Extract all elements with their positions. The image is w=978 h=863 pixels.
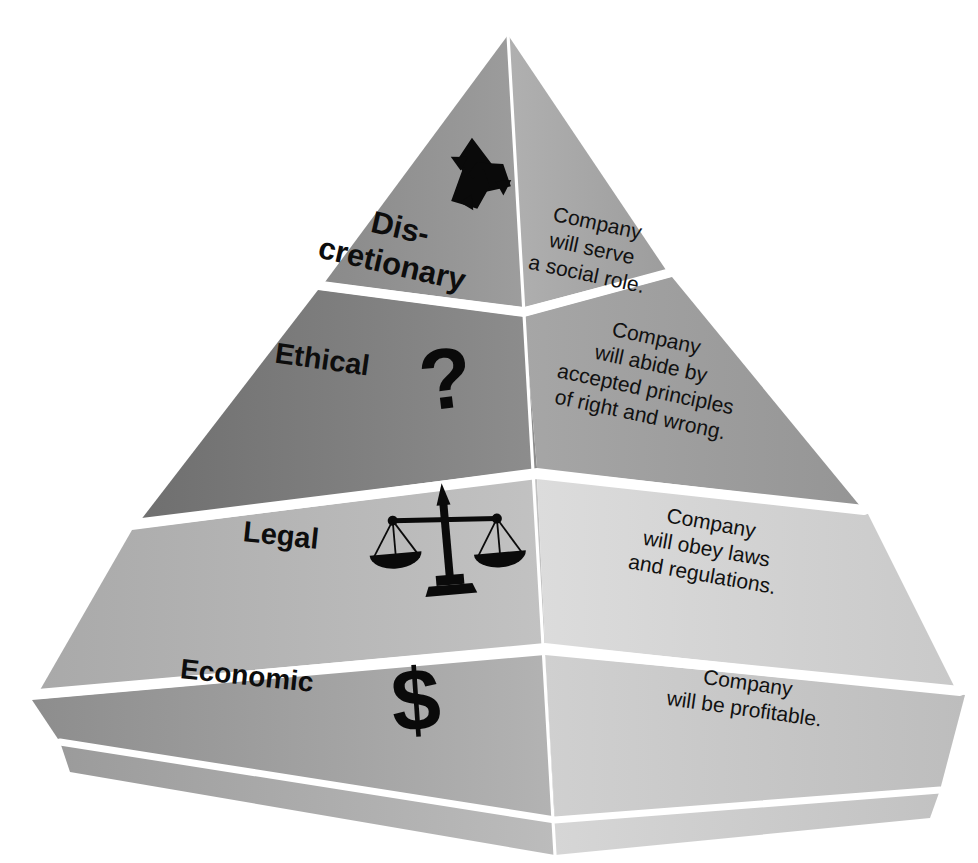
dollar-sign-icon: $ xyxy=(388,648,444,750)
pyramid-graphic: ? xyxy=(0,0,978,863)
pyramid-diagram: ? xyxy=(0,0,978,863)
